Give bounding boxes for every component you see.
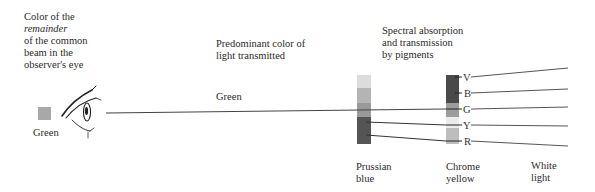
band-label-r: R [464,136,471,147]
band-label-g: G [463,104,471,115]
band-label-b: B [464,88,471,99]
green-beam [106,109,446,113]
light-path-diagram: V B G Y R [0,0,595,192]
band-label-y: Y [463,120,471,131]
yellow-ray [366,122,446,125]
band-label-v: V [463,72,471,83]
red-ray [366,135,446,141]
eye-icon [62,86,101,138]
white-light-rays [471,68,568,146]
